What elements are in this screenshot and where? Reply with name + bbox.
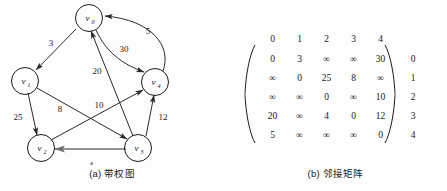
matrix-cell-3-0: 20 xyxy=(259,106,286,125)
matrix-row-3-bracket-left xyxy=(248,106,259,125)
matrix-row: ∞ 0 25 8 ∞ 1 xyxy=(248,68,421,87)
edge-v1-v3 xyxy=(37,88,127,139)
matrix-table: 0 1 2 3 4 0 3 ∞ ∞ 30 xyxy=(248,30,421,144)
node-v2-subscript: 2 xyxy=(44,149,47,155)
edge-v1-v2 xyxy=(28,93,37,135)
matrix-row-1-bracket-right xyxy=(394,68,405,87)
matrix-column-header-row: 0 1 2 3 4 xyxy=(248,30,421,49)
matrix-row-2-bracket-left xyxy=(248,87,259,106)
matrix-col-header-3: 3 xyxy=(340,30,367,49)
matrix-row: 20 ∞ 4 0 12 3 xyxy=(248,106,421,125)
matrix-row-0-bracket-left xyxy=(248,49,259,68)
edge-weight-v4-v0: 5 xyxy=(146,26,151,36)
weighted-graph-panel: v 0 v 1 v 2 v 3 xyxy=(0,0,224,191)
matrix-cell-1-0: ∞ xyxy=(259,68,286,87)
matrix-cell-0-4: 30 xyxy=(367,49,394,68)
matrix-cell-2-1: ∞ xyxy=(286,87,313,106)
matrix-row-0-bracket-right xyxy=(394,49,405,68)
matrix-cell-2-3: ∞ xyxy=(340,87,367,106)
matrix-cell-3-2: 4 xyxy=(313,106,340,125)
node-v4-subscript: 4 xyxy=(158,83,161,89)
matrix-cell-0-0: 0 xyxy=(259,49,286,68)
node-v4[interactable]: v 4 xyxy=(142,69,169,96)
matrix-cell-0-2: ∞ xyxy=(313,49,340,68)
matrix-col-header-2: 2 xyxy=(313,30,340,49)
matrix-row: ∞ ∞ 0 ∞ 10 2 xyxy=(248,87,421,106)
matrix-cell-4-0: 5 xyxy=(259,125,286,144)
matrix-row-label-1: 1 xyxy=(405,68,421,87)
edge-weight-v2-v4: 10 xyxy=(95,100,105,110)
edge-v3-v4 xyxy=(146,95,154,136)
node-v0-label: v xyxy=(86,13,90,23)
node-v2[interactable]: v 2 xyxy=(28,135,55,162)
matrix-cell-2-2: 0 xyxy=(313,87,340,106)
node-v1-label: v xyxy=(22,76,26,86)
matrix-col-header-4: 4 xyxy=(367,30,394,49)
matrix-bracket-spacer-left xyxy=(248,30,259,49)
matrix-row-2-bracket-right xyxy=(394,87,405,106)
node-v1[interactable]: v 1 xyxy=(12,68,39,95)
matrix-row-4-bracket-right xyxy=(394,125,405,144)
matrix-row: 0 3 ∞ ∞ 30 0 xyxy=(248,49,421,68)
adjacency-matrix-panel: 0 1 2 3 4 0 3 ∞ ∞ 30 xyxy=(224,0,447,191)
caption-adjacency-matrix: (b) 邻接矩阵 xyxy=(224,166,447,180)
edge-weight-v3-v4: 12 xyxy=(159,112,168,122)
edge-weight-v3-v2: 4 xyxy=(89,160,94,165)
edge-weight-v1-v2: 25 xyxy=(14,112,24,122)
matrix-cell-4-1: ∞ xyxy=(286,125,313,144)
node-v2-label: v xyxy=(38,143,42,153)
edge-weight-v0-v1: 3 xyxy=(49,38,54,48)
matrix-cell-1-2: 25 xyxy=(313,68,340,87)
matrix-row-header-corner xyxy=(405,30,421,49)
matrix-cell-3-4: 12 xyxy=(367,106,394,125)
matrix-cell-2-0: ∞ xyxy=(259,87,286,106)
matrix-col-header-1: 1 xyxy=(286,30,313,49)
node-v3-subscript: 3 xyxy=(140,149,144,155)
node-v3[interactable]: v 3 xyxy=(125,135,152,162)
edge-v0-v1 xyxy=(36,29,76,70)
graph-diagram: v 0 v 1 v 2 v 3 xyxy=(0,0,224,165)
node-v4-label: v xyxy=(152,77,156,87)
matrix-row-label-2: 2 xyxy=(405,87,421,106)
matrix-cell-3-1: ∞ xyxy=(286,106,313,125)
matrix-cell-4-3: ∞ xyxy=(340,125,367,144)
edge-v4-v0 xyxy=(105,16,165,71)
edge-v2-v4 xyxy=(51,90,143,140)
matrix-row-1-bracket-left xyxy=(248,68,259,87)
matrix-cell-0-1: 3 xyxy=(286,49,313,68)
matrix-row-4-bracket-left xyxy=(248,125,259,144)
matrix-cell-3-3: 0 xyxy=(340,106,367,125)
node-v3-label: v xyxy=(135,143,139,153)
matrix-row-label-4: 4 xyxy=(405,125,421,144)
matrix-row-label-0: 0 xyxy=(405,49,421,68)
matrix-cell-4-2: ∞ xyxy=(313,125,340,144)
matrix-cell-1-1: 0 xyxy=(286,68,313,87)
edge-weight-v3-v0: 20 xyxy=(93,66,103,76)
edge-weight-v0-v4: 30 xyxy=(120,44,130,54)
node-v0-subscript: 0 xyxy=(92,19,95,25)
node-v0[interactable]: v 0 xyxy=(76,5,103,32)
matrix-row: 5 ∞ ∞ ∞ 0 4 xyxy=(248,125,421,144)
edge-weight-v1-v3: 8 xyxy=(58,104,63,114)
matrix-row-3-bracket-right xyxy=(394,106,405,125)
node-v1-subscript: 1 xyxy=(28,82,31,88)
graph-edges xyxy=(28,16,165,149)
caption-weighted-graph: (a) 带权图 xyxy=(0,166,224,180)
matrix-cell-1-3: 8 xyxy=(340,68,367,87)
matrix-bracket-spacer-right xyxy=(394,30,405,49)
figure-root: v 0 v 1 v 2 v 3 xyxy=(0,0,447,191)
matrix-cell-2-4: 10 xyxy=(367,87,394,106)
adjacency-matrix: 0 1 2 3 4 0 3 ∞ ∞ 30 xyxy=(248,30,433,144)
matrix-col-header-0: 0 xyxy=(259,30,286,49)
matrix-cell-1-4: ∞ xyxy=(367,68,394,87)
matrix-cell-4-4: 0 xyxy=(367,125,394,144)
matrix-row-label-3: 3 xyxy=(405,106,421,125)
matrix-cell-0-3: ∞ xyxy=(340,49,367,68)
